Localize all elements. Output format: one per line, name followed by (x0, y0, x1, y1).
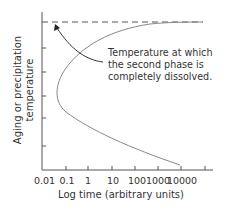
y-ticks (42, 48, 46, 146)
x-tick-label: 0.1 (59, 175, 74, 186)
annotation-arrow (57, 28, 103, 62)
svg-text:temperature: temperature (24, 59, 35, 122)
y-axis-label: Aging or precipitation temperature (12, 36, 35, 144)
svg-text:Aging or precipitation: Aging or precipitation (12, 36, 23, 144)
x-tick-label: 10 (107, 175, 119, 186)
svg-text:Temperature at which: Temperature at which (107, 47, 212, 58)
x-ticks (66, 166, 205, 170)
x-tick-labels: 0.01 0.1 1 10 100 1000 10000 (34, 175, 197, 186)
x-tick-label: 10000 (167, 175, 197, 186)
c-curve (57, 22, 203, 165)
x-tick-label: 100 (128, 175, 146, 186)
annotation: Temperature at which the second phase is… (107, 47, 212, 82)
svg-text:the second phase is: the second phase is (108, 59, 204, 70)
x-tick-label: 1 (85, 175, 91, 186)
x-axis-label: Log time (arbitrary units) (58, 189, 184, 200)
x-tick-label: 0.01 (34, 175, 55, 186)
arrow-head-icon (54, 24, 60, 31)
svg-text:completely dissolved.: completely dissolved. (108, 71, 212, 82)
chart: 0.01 0.1 1 10 100 1000 10000 Log time (a… (0, 0, 245, 215)
